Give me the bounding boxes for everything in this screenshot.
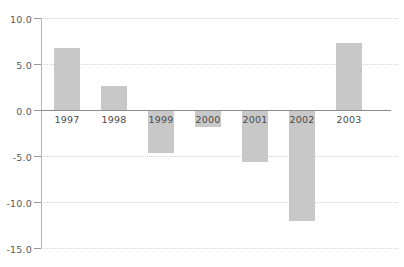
x-axis-label-1999: 1999	[149, 114, 174, 125]
bar-1997	[54, 48, 80, 110]
y-axis-tick-label: 5.0	[16, 60, 32, 71]
x-axis-label-2000: 2000	[196, 114, 221, 125]
gridline-minus15	[41, 248, 398, 249]
y-axis-tick-label: -15.0	[6, 244, 32, 255]
y-tick-0	[34, 110, 41, 111]
gridline-minus10	[41, 202, 398, 203]
x-axis-label-2001: 2001	[243, 114, 268, 125]
y-tick-minus5	[34, 156, 41, 157]
x-axis-label-1998: 1998	[102, 114, 127, 125]
y-axis-line	[41, 18, 42, 248]
y-axis-tick-label: -10.0	[6, 198, 32, 209]
y-tick-minus10	[34, 202, 41, 203]
bar-2003	[336, 43, 362, 110]
x-axis-label-2002: 2002	[290, 114, 315, 125]
bar-2002	[289, 110, 315, 221]
y-tick-10	[34, 18, 41, 19]
gridline-minus5	[41, 156, 398, 157]
y-axis-tick-label: 10.0	[10, 14, 32, 25]
y-axis-tick-label: 0.0	[16, 106, 32, 117]
gridline-10	[41, 18, 398, 19]
y-axis-tick-label: -5.0	[13, 152, 32, 163]
y-tick-minus15	[34, 248, 41, 249]
bar-1998	[101, 86, 127, 110]
x-axis-label-1997: 1997	[55, 114, 80, 125]
x-axis-label-2003: 2003	[337, 114, 362, 125]
bar-chart: 10.0 5.0 0.0 -5.0 -10.0 -15.0 1997 1998 …	[0, 0, 404, 267]
y-tick-5	[34, 64, 41, 65]
zero-axis-line	[41, 110, 391, 111]
